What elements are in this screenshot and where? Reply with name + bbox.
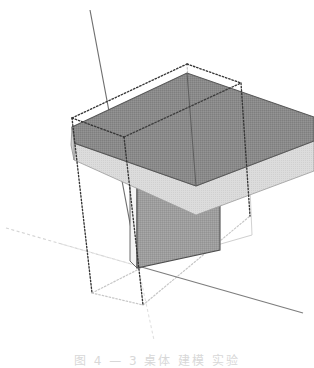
scene-canvas[interactable] — [0, 0, 314, 340]
bbox-edge-bottom-left — [92, 293, 143, 305]
figure-caption-bar: 图 4 — 3 桌体 建模 实验 — [0, 340, 314, 368]
depth-axis-positive — [138, 266, 303, 313]
tabletop[interactable] — [71, 73, 314, 215]
figure-caption: 图 4 — 3 桌体 建模 实验 — [0, 354, 314, 368]
model-viewport[interactable] — [0, 0, 314, 340]
